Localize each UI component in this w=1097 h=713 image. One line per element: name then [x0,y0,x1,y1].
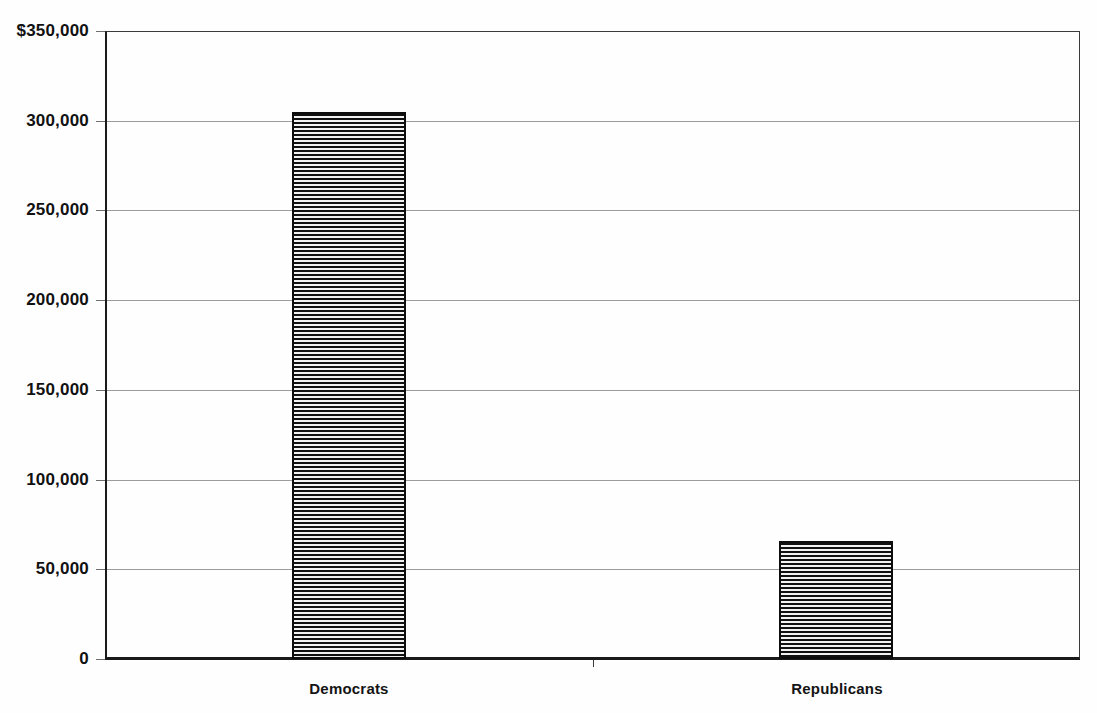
bar-chart: $350,000300,000250,000200,000150,000100,… [0,0,1097,713]
y-axis-tick [96,569,105,570]
y-axis-tick [96,210,105,211]
y-axis-tick [96,31,105,32]
bar-republicans [779,541,893,659]
y-axis-tick-label: $350,000 [0,21,89,41]
y-axis-tick-label: 250,000 [0,200,89,220]
y-axis-tick-label: 100,000 [0,470,89,490]
y-axis-tick [96,480,105,481]
y-axis-tick [96,300,105,301]
x-axis-tick [593,660,594,667]
y-axis-tick [96,659,105,660]
y-axis-tick-label: 150,000 [0,380,89,400]
y-axis-tick-label: 50,000 [0,559,89,579]
y-axis-tick-label: 0 [0,649,89,669]
y-axis-tick [96,121,105,122]
plot-area [105,31,1080,659]
y-axis-tick-label: 200,000 [0,290,89,310]
x-axis-label-republicans: Republicans [593,680,1081,697]
y-axis-tick-label: 300,000 [0,111,89,131]
bar-democrats [292,112,406,659]
y-axis-tick [96,390,105,391]
x-axis-label-democrats: Democrats [105,680,593,697]
